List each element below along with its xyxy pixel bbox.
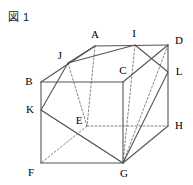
vertex-label-C: C: [119, 64, 126, 76]
vertex-label-J: J: [58, 49, 63, 61]
vertex-label-G: G: [120, 167, 128, 179]
vertex-label-F: F: [28, 166, 34, 178]
vertex-label-K: K: [26, 103, 34, 115]
cut-plane-outline: [41, 45, 168, 163]
cube-diagram: ABCDEFGHIJKL: [0, 0, 193, 185]
hidden-edges-group: [41, 45, 168, 163]
vertex-label-H: H: [175, 119, 183, 131]
vertex-label-B: B: [25, 75, 32, 87]
vertex-label-E: E: [76, 114, 83, 126]
visible-edges-group: [41, 45, 168, 163]
vertex-label-L: L: [176, 65, 183, 77]
vertex-label-A: A: [91, 28, 99, 40]
edge-D-G: [123, 45, 168, 163]
edge-J-A: [68, 46, 95, 63]
vertex-labels-group: ABCDEFGHIJKL: [25, 27, 183, 179]
vertex-label-I: I: [132, 27, 136, 39]
figure-container: 図 1 ABCDEFGHIJKL: [0, 0, 193, 185]
vertex-label-D: D: [175, 34, 183, 46]
edge-H-G: [123, 126, 168, 163]
cut-plane-group: [41, 45, 168, 163]
edge-E-F: [41, 126, 87, 163]
